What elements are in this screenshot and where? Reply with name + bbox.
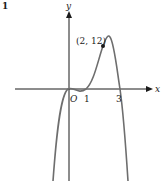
origin-label: O [70,94,78,104]
y-axis-arrow-icon [66,11,72,18]
x-axis-arrow-icon [146,86,153,92]
x-axis-label: x [155,84,160,94]
tick-label-3: 3 [116,94,122,104]
y-axis-label: y [65,1,72,11]
curve [53,36,128,181]
point-label: (2, 12) [76,36,106,46]
graph: 1 x y O 1 3 (2, 12) [0,0,163,181]
tick-label-1: 1 [84,94,90,104]
question-number: 1 [2,1,8,11]
